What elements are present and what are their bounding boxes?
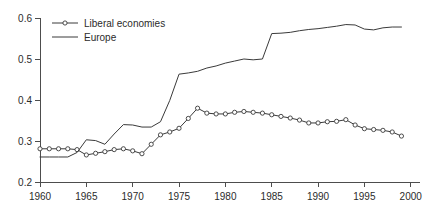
series-data-point (372, 127, 376, 131)
x-tick-label: 1990 (307, 191, 330, 202)
series-data-point (399, 134, 403, 138)
x-tick-label: 1960 (29, 191, 52, 202)
y-tick-label: 0.2 (18, 177, 32, 188)
y-tick-label: 0.6 (18, 13, 32, 24)
series-data-point (103, 150, 107, 154)
line-chart: 0.20.30.40.50.6 196019651970197519801985… (0, 0, 431, 218)
chart-legend: Liberal economiesEurope (52, 18, 165, 43)
y-axis-group: 0.20.30.40.50.6 (18, 13, 40, 188)
series-data-point (223, 112, 227, 116)
x-tick-label: 2000 (400, 191, 423, 202)
x-tick-group: 196019651970197519801985199019952000 (29, 182, 422, 202)
series-group (38, 25, 404, 157)
series-data-point (177, 126, 181, 130)
series-data-point (205, 111, 209, 115)
series-data-point (112, 148, 116, 152)
series-data-point (260, 111, 264, 115)
series-line-liberal-economies (40, 108, 401, 155)
series-data-point (362, 127, 366, 131)
series-data-point (168, 130, 172, 134)
series-data-point (334, 119, 338, 123)
series-line-europe (40, 25, 401, 157)
x-tick-label: 1965 (75, 191, 98, 202)
x-axis-group: 196019651970197519801985199019952000 (29, 182, 422, 202)
series-data-point (121, 147, 125, 151)
series-data-point (186, 116, 190, 120)
legend-label: Europe (84, 32, 117, 43)
series-data-point (84, 153, 88, 157)
series-data-point (38, 147, 42, 151)
series-data-point (242, 109, 246, 113)
series-data-point (140, 152, 144, 156)
x-tick-label: 1970 (122, 191, 145, 202)
series-data-point (344, 118, 348, 122)
y-tick-label: 0.3 (18, 136, 32, 147)
series-data-point (131, 149, 135, 153)
series-data-point (307, 121, 311, 125)
series-data-point (316, 121, 320, 125)
x-tick-label: 1975 (168, 191, 191, 202)
series-data-point (56, 147, 60, 151)
series-data-point (381, 128, 385, 132)
series-data-point (390, 130, 394, 134)
series-data-point (94, 151, 98, 155)
x-tick-label: 1995 (353, 191, 376, 202)
series-data-point (325, 120, 329, 124)
series-data-point (47, 147, 51, 151)
x-tick-label: 1985 (261, 191, 284, 202)
chart-page: 0.20.30.40.50.6 196019651970197519801985… (0, 0, 431, 218)
series-data-point (251, 110, 255, 114)
y-tick-label: 0.5 (18, 54, 32, 65)
legend-marker-icon (63, 21, 67, 25)
series-data-point (279, 114, 283, 118)
series-data-point (195, 106, 199, 110)
series-data-point (297, 118, 301, 122)
series-data-point (288, 116, 292, 120)
y-tick-label: 0.4 (18, 95, 32, 106)
series-data-point (66, 147, 70, 151)
y-tick-group: 0.20.30.40.50.6 (18, 13, 40, 188)
series-data-point (353, 123, 357, 127)
series-data-point (214, 112, 218, 116)
legend-label: Liberal economies (84, 18, 165, 29)
x-tick-label: 1980 (214, 191, 237, 202)
series-data-point (233, 110, 237, 114)
series-data-point (158, 133, 162, 137)
series-data-point (149, 142, 153, 146)
series-data-point (270, 113, 274, 117)
